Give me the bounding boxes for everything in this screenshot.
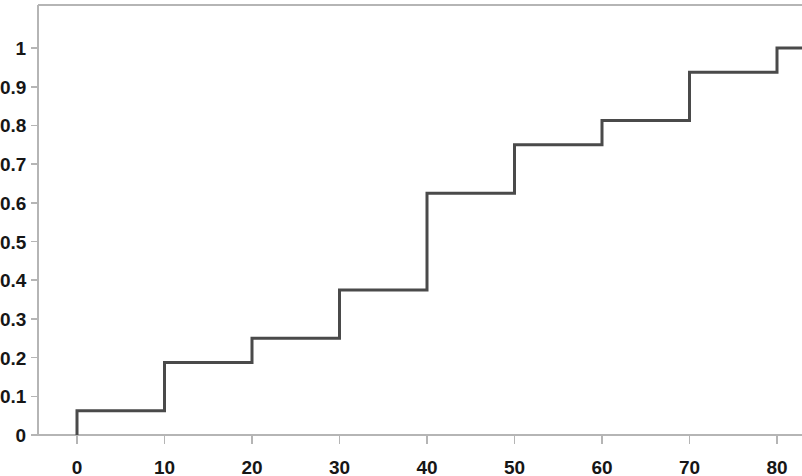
plot-canvas xyxy=(0,0,802,476)
tick-marks xyxy=(31,48,777,444)
y-axis-tick-label: 0.6 xyxy=(0,193,26,212)
y-axis-tick-label: 0.8 xyxy=(0,116,26,135)
y-axis-tick-label: 0.7 xyxy=(0,155,26,174)
step-line xyxy=(77,48,802,435)
x-axis-tick-label: 20 xyxy=(241,458,262,476)
y-axis-tick-label: 0.2 xyxy=(0,348,26,367)
y-axis-tick-label: 0.3 xyxy=(0,309,26,328)
x-axis-tick-label: 10 xyxy=(154,458,175,476)
x-axis-tick-label: 50 xyxy=(504,458,525,476)
y-axis-tick-label: 0 xyxy=(0,426,26,445)
axis-lines xyxy=(38,5,802,435)
y-axis-tick-label: 1 xyxy=(0,39,26,58)
x-axis-tick-label: 40 xyxy=(416,458,437,476)
x-axis-tick-label: 60 xyxy=(591,458,612,476)
x-axis-tick-label: 0 xyxy=(72,458,83,476)
x-axis-tick-label: 70 xyxy=(679,458,700,476)
step-chart: 00.10.20.30.40.50.60.70.80.91 0102030405… xyxy=(0,0,802,476)
x-axis-tick-label: 80 xyxy=(766,458,787,476)
x-axis-tick-label: 30 xyxy=(329,458,350,476)
y-axis-tick-label: 0.9 xyxy=(0,77,26,96)
y-axis-tick-label: 0.4 xyxy=(0,271,26,290)
y-axis-tick-label: 0.1 xyxy=(0,387,26,406)
ecdf-step-path xyxy=(77,48,802,435)
y-axis-tick-label: 0.5 xyxy=(0,232,26,251)
